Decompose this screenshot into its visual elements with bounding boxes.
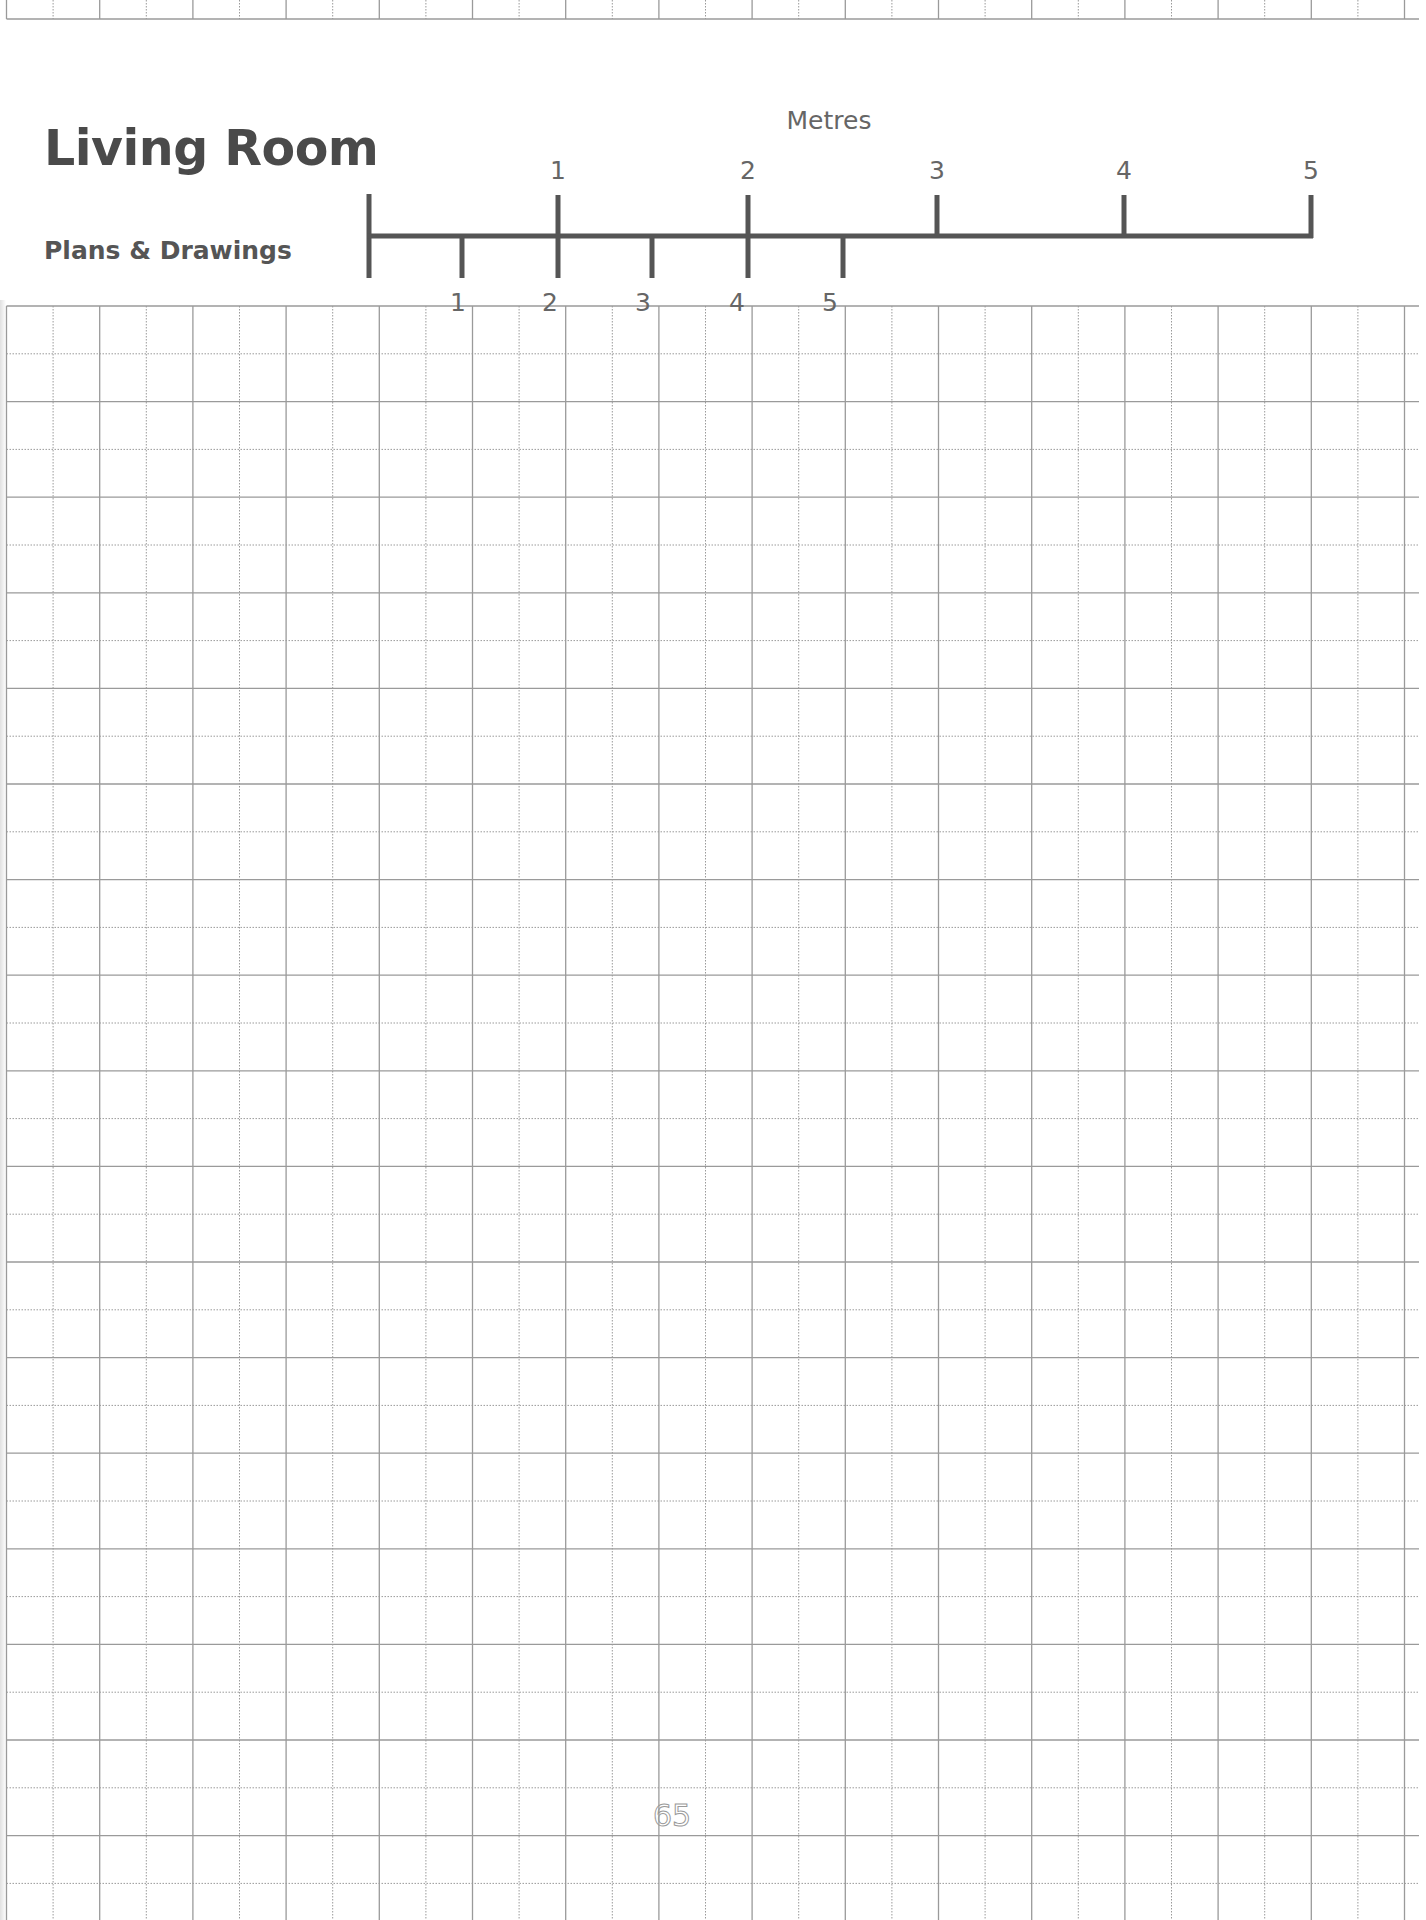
- scale-upper-label-5: 5: [1303, 156, 1319, 185]
- scale-lower-label-1: 1: [450, 288, 466, 317]
- scale-upper-label-2: 2: [740, 156, 756, 185]
- graph-paper-page: Living Room Plans & Drawings Metres 1 2 …: [0, 0, 1426, 1920]
- page-number: 65: [653, 1798, 691, 1833]
- scale-bar: [0, 0, 1426, 300]
- scale-upper-label-1: 1: [550, 156, 566, 185]
- scale-lower-label-4: 4: [729, 288, 745, 317]
- scale-lower-label-3: 3: [635, 288, 651, 317]
- scale-upper-label-3: 3: [929, 156, 945, 185]
- scale-upper-label-4: 4: [1116, 156, 1132, 185]
- scale-unit-label: Metres: [787, 106, 872, 135]
- scale-lower-label-2: 2: [542, 288, 558, 317]
- scale-lower-label-5: 5: [822, 288, 838, 317]
